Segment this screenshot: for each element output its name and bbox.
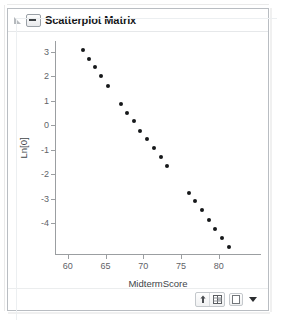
y-tick-label: -4 — [41, 218, 49, 228]
y-tick-label: 1 — [44, 96, 49, 106]
x-tick-label: 75 — [176, 261, 186, 271]
data-point — [220, 236, 224, 240]
x-tick-label: 60 — [63, 261, 73, 271]
x-tick-label: 70 — [138, 261, 148, 271]
data-point — [106, 84, 110, 88]
data-point — [145, 137, 149, 141]
data-point — [81, 48, 85, 52]
grid-table-icon[interactable] — [210, 293, 224, 306]
scatterplot-panel: Scatterplot Matrix Ln[0] 3210-1-2-3-4 60… — [7, 8, 269, 311]
x-tick-label: 65 — [101, 261, 111, 271]
window-shadow-bottom — [8, 312, 270, 314]
data-point — [207, 218, 211, 222]
data-point — [200, 208, 204, 212]
data-point — [132, 119, 136, 123]
y-tick-label: 0 — [44, 120, 49, 130]
panel-title: Scatterplot Matrix — [45, 14, 136, 26]
blank-page-icon[interactable] — [229, 293, 243, 306]
panel-toolbar — [8, 289, 268, 310]
data-point — [93, 65, 97, 69]
x-tick — [143, 255, 144, 259]
data-point — [159, 155, 163, 159]
x-tick — [219, 255, 220, 259]
y-tick-label: -3 — [41, 194, 49, 204]
data-point — [227, 245, 231, 249]
data-point — [99, 74, 103, 78]
data-point — [213, 227, 217, 231]
x-tick-label: 80 — [214, 261, 224, 271]
data-point-layer — [55, 41, 261, 255]
x-axis-label: MidtermScore — [55, 278, 261, 288]
data-point — [119, 102, 123, 106]
data-point — [125, 111, 129, 115]
y-tick-label: 2 — [44, 71, 49, 81]
toolbar-button-group — [195, 292, 225, 307]
data-point — [152, 146, 156, 150]
x-tick — [106, 255, 107, 259]
triangle-collapse-icon[interactable] — [13, 16, 22, 25]
data-point — [87, 57, 91, 61]
window-shadow-left — [4, 5, 5, 311]
minus-box-icon[interactable] — [26, 14, 41, 27]
y-tick-label: 3 — [44, 47, 49, 57]
x-tick — [68, 255, 69, 259]
plot-axes: 3210-1-2-3-4 6065707580 — [55, 41, 261, 255]
data-point — [165, 164, 169, 168]
pointer-arrow-icon[interactable] — [196, 293, 210, 306]
y-tick-label: -2 — [41, 169, 49, 179]
window-shadow-right — [270, 8, 272, 312]
x-tick — [181, 255, 182, 259]
data-point — [138, 129, 142, 133]
panel-header[interactable]: Scatterplot Matrix — [8, 9, 268, 31]
data-point — [193, 199, 197, 203]
window-shadow-top — [7, 4, 269, 5]
scatter-plot: Ln[0] 3210-1-2-3-4 6065707580 MidtermSco… — [9, 32, 268, 288]
dropdown-caret-icon[interactable] — [246, 293, 259, 306]
y-tick-label: -1 — [41, 145, 49, 155]
data-point — [187, 191, 191, 195]
y-axis-label: Ln[0] — [18, 137, 29, 158]
caret-glyph — [249, 297, 257, 302]
